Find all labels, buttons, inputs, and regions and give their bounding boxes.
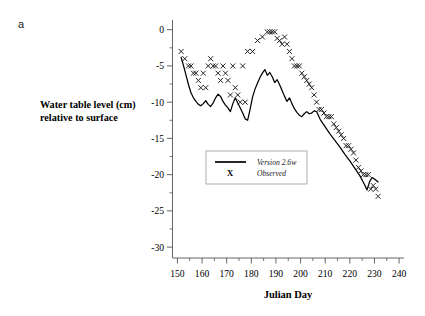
- observed-marker: [260, 34, 265, 39]
- observed-marker: [272, 29, 277, 34]
- observed-marker: [289, 56, 294, 61]
- observed-marker: [186, 63, 191, 68]
- x-tick-label: 180: [244, 268, 259, 279]
- x-tick-label: 220: [343, 268, 358, 279]
- observed-marker: [235, 92, 240, 97]
- figure-panel: a Water table level (cm) relative to sur…: [0, 0, 425, 316]
- observed-marker: [191, 71, 196, 76]
- legend-box: [206, 151, 307, 184]
- observed-marker: [218, 78, 223, 83]
- observed-marker: [206, 63, 211, 68]
- observed-marker: [267, 29, 272, 34]
- observed-marker: [225, 78, 230, 83]
- y-tick-label: -10: [151, 97, 164, 108]
- observed-marker: [292, 63, 297, 68]
- observed-marker: [182, 56, 187, 61]
- observed-marker: [216, 71, 221, 76]
- x-tick-label: 160: [195, 268, 210, 279]
- x-tick-label: 190: [269, 268, 284, 279]
- observed-marker: [312, 92, 317, 97]
- observed-marker: [223, 71, 228, 76]
- observed-marker: [287, 49, 292, 54]
- observed-marker: [344, 143, 349, 148]
- y-tick-label: -15: [151, 133, 164, 144]
- observed-marker: [228, 92, 233, 97]
- observed-marker: [297, 63, 302, 68]
- y-tick-label: -20: [151, 169, 164, 180]
- observed-marker: [270, 29, 275, 34]
- observed-marker: [363, 172, 368, 177]
- observed-marker: [314, 100, 319, 105]
- x-tick-label: 230: [367, 268, 382, 279]
- observed-marker: [243, 100, 248, 105]
- observed-marker: [245, 49, 250, 54]
- x-tick-label: 150: [170, 268, 185, 279]
- legend-label-version: Version 2.6w: [257, 158, 297, 167]
- observed-marker: [240, 63, 245, 68]
- y-tick-label: -25: [151, 205, 164, 216]
- observed-marker: [255, 38, 260, 43]
- x-tick-label: 170: [219, 268, 234, 279]
- observed-marker: [203, 85, 208, 90]
- observed-marker: [188, 63, 193, 68]
- legend-marker-swatch: X: [227, 168, 234, 178]
- observed-marker: [294, 63, 299, 68]
- observed-marker: [220, 63, 225, 68]
- chart-plot-area: 0-5-10-15-20-25-301501601701801902002102…: [0, 0, 425, 316]
- observed-marker: [233, 85, 238, 90]
- observed-marker: [208, 56, 213, 61]
- x-tick-label: 210: [318, 268, 333, 279]
- y-tick-label: 0: [159, 24, 164, 35]
- observed-marker: [376, 194, 381, 199]
- observed-marker: [179, 49, 184, 54]
- observed-marker: [265, 29, 270, 34]
- y-tick-label: -5: [156, 60, 164, 71]
- x-tick-label: 200: [293, 268, 308, 279]
- observed-marker: [193, 71, 198, 76]
- observed-marker: [211, 63, 216, 68]
- observed-marker: [238, 100, 243, 105]
- observed-marker: [317, 107, 322, 112]
- observed-marker: [353, 158, 358, 163]
- observed-marker: [201, 71, 206, 76]
- observed-marker: [250, 49, 255, 54]
- y-tick-label: -30: [151, 242, 164, 253]
- observed-marker: [198, 85, 203, 90]
- legend-label-observed: Observed: [257, 169, 286, 178]
- observed-marker: [326, 114, 331, 119]
- observed-marker: [230, 63, 235, 68]
- x-tick-label: 240: [392, 268, 407, 279]
- observed-marker: [285, 42, 290, 47]
- observed-marker: [213, 63, 218, 68]
- observed-marker: [282, 34, 287, 39]
- observed-marker: [329, 114, 334, 119]
- observed-marker: [366, 172, 371, 177]
- observed-marker: [196, 78, 201, 83]
